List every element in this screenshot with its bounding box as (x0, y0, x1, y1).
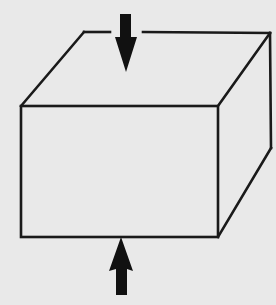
box-side-face (218, 33, 271, 237)
diagram-canvas: Rectangular block with opposing vertical… (0, 0, 276, 305)
top-back-edge-right (143, 32, 270, 33)
box-front-face (21, 106, 218, 237)
box-top-face (21, 32, 270, 106)
back-right-vertical-edge (270, 33, 271, 148)
bottom-right-edge (218, 148, 271, 237)
arrow-up-icon (109, 237, 133, 295)
compressed-box-diagram (0, 0, 276, 305)
arrow-down-icon (115, 14, 137, 72)
top-right-edge (218, 33, 270, 106)
top-left-edge (21, 32, 84, 106)
